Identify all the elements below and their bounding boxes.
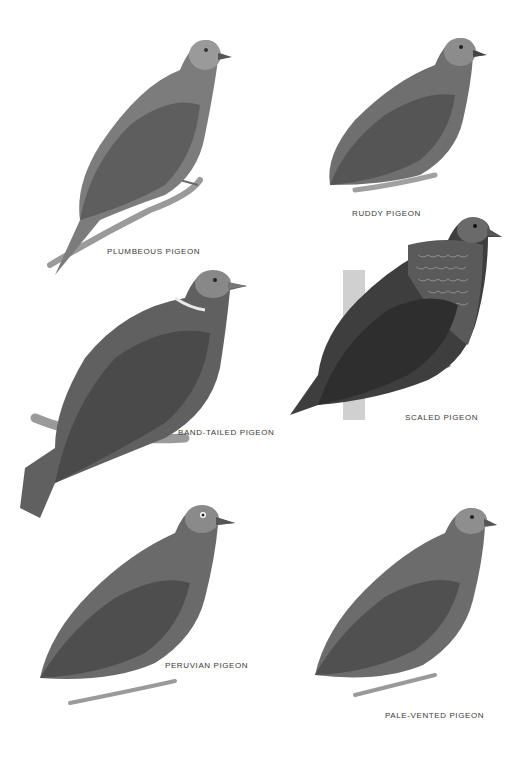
species-label-band-tailed: BAND-TAILED PIGEON <box>178 428 274 437</box>
ruddy-pigeon-illustration <box>295 35 495 230</box>
band-tailed-pigeon-illustration <box>15 268 250 520</box>
species-label-plumbeous: PLUMBEOUS PIGEON <box>107 247 200 256</box>
peruvian-pigeon-illustration <box>10 503 240 723</box>
scaled-pigeon-illustration <box>288 215 503 425</box>
illustration-plate: PLUMBEOUS PIGEON RUDDY PIGEON BAND-TAILE… <box>0 0 532 760</box>
species-label-scaled: SCALED PIGEON <box>405 413 478 422</box>
species-label-pale-vented: PALE-VENTED PIGEON <box>385 711 484 720</box>
species-label-peruvian: PERUVIAN PIGEON <box>165 661 248 670</box>
pale-vented-pigeon-illustration <box>285 505 500 715</box>
